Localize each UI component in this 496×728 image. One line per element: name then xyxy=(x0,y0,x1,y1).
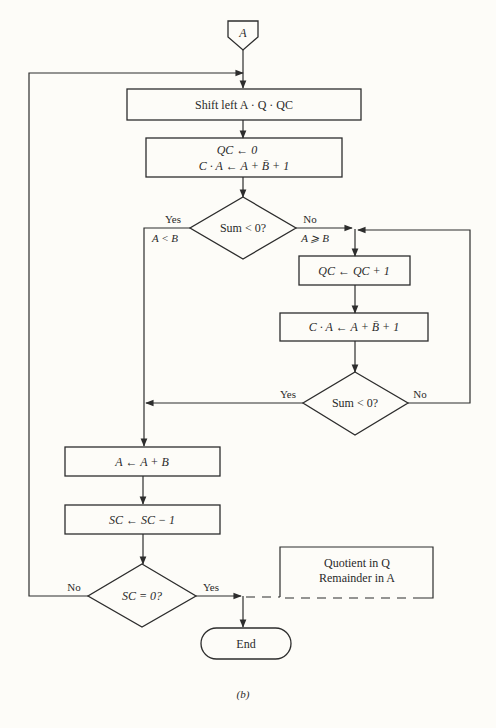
d1-yes-condition: A < B xyxy=(151,232,178,244)
annotation-quotient: Quotient in Q xyxy=(324,556,390,570)
d1-no-condition: A ⩾ B xyxy=(300,232,329,244)
result-annotation: Quotient in Q Remainder in A xyxy=(246,547,433,598)
decision-sc-zero: SC = 0? xyxy=(88,564,196,627)
d3-no-label: No xyxy=(67,581,81,593)
init-qc-label: QC ← 0 xyxy=(217,143,258,157)
annotation-remainder: Remainder in A xyxy=(319,571,395,585)
sc-decrement-box: SC ← SC − 1 xyxy=(65,505,220,534)
decision-sum-negative-1: Sum < 0? xyxy=(190,197,296,259)
decision3-label: SC = 0? xyxy=(122,589,162,603)
restore-label: A ← A + B xyxy=(114,455,169,469)
start-connector: A xyxy=(228,21,258,50)
start-connector-label: A xyxy=(238,26,247,40)
subtract-again-label: C · A ← A + B̄ + 1 xyxy=(309,320,399,334)
init-subtract-box: QC ← 0 C · A ← A + B̄ + 1 xyxy=(146,138,342,177)
division-flowchart: A Shift left A · Q · QC QC ← 0 C · A ← A… xyxy=(0,0,496,728)
restore-box: A ← A + B xyxy=(65,447,220,476)
edge-d1-yes xyxy=(144,228,190,446)
qc-increment-box: QC ← QC + 1 xyxy=(299,256,410,285)
d2-yes-label: Yes xyxy=(280,388,296,400)
d1-yes-label: Yes xyxy=(165,213,181,225)
d2-no-label: No xyxy=(413,388,427,400)
figure-caption: (b) xyxy=(237,688,250,701)
decision2-label: Sum < 0? xyxy=(332,396,378,410)
qc-increment-label: QC ← QC + 1 xyxy=(318,264,389,278)
sc-decrement-label: SC ← SC − 1 xyxy=(109,513,175,527)
decision-sum-negative-2: Sum < 0? xyxy=(303,372,408,435)
shift-left-box: Shift left A · Q · QC xyxy=(127,89,361,120)
end-terminator: End xyxy=(201,628,291,659)
decision1-label: Sum < 0? xyxy=(220,221,266,235)
d3-yes-label: Yes xyxy=(203,581,219,593)
end-label: End xyxy=(236,637,255,651)
init-subtract-label: C · A ← A + B̄ + 1 xyxy=(199,159,289,173)
d1-no-label: No xyxy=(303,213,317,225)
subtract-again-box: C · A ← A + B̄ + 1 xyxy=(280,313,428,341)
shift-left-label: Shift left A · Q · QC xyxy=(195,98,293,112)
